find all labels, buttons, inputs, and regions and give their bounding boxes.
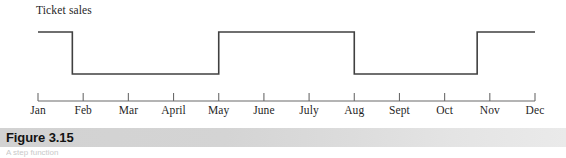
- step-line-path: [38, 32, 535, 74]
- x-axis-tick-label: Mar: [119, 104, 138, 116]
- chart-plot-area: Ticket sales JanFebMarAprilMayJuneJulyAu…: [0, 0, 566, 124]
- figure-caption-title: Figure 3.15: [6, 130, 74, 145]
- figure-caption-band: Figure 3.15: [0, 128, 566, 147]
- x-axis-tick-label: May: [208, 104, 229, 116]
- x-axis-tick-labels: JanFebMarAprilMayJuneJulyAugSeptOctNovDe…: [0, 104, 566, 122]
- x-axis: [38, 93, 535, 101]
- x-axis-tick-label: Aug: [344, 104, 364, 116]
- figure-caption-subtext: A step function: [6, 148, 306, 157]
- x-axis-tick-label: June: [253, 104, 274, 116]
- x-axis-tick-label: Sept: [389, 104, 410, 116]
- x-axis-tick-label: Feb: [74, 104, 92, 116]
- x-axis-tick-label: Oct: [436, 104, 453, 116]
- x-axis-tick-label: April: [161, 104, 186, 116]
- step-line-series: [38, 32, 535, 74]
- figure-container: Ticket sales JanFebMarAprilMayJuneJulyAu…: [0, 0, 566, 158]
- x-axis-tick-label: Jan: [30, 104, 46, 116]
- x-axis-tick-label: Nov: [480, 104, 500, 116]
- x-axis-tick-label: July: [299, 104, 319, 116]
- x-axis-tick-label: Dec: [526, 104, 545, 116]
